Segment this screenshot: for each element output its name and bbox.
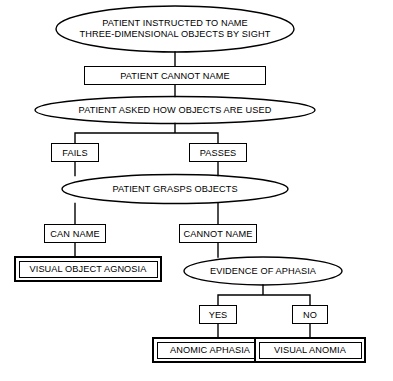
flowchart-diagram: PATIENT INSTRUCTED TO NAME THREE-DIMENSI… (0, 0, 393, 381)
node-grasps-objects-label: PATIENT GRASPS OBJECTS (62, 184, 288, 195)
node-patient-cannot-name: PATIENT CANNOT NAME (84, 66, 266, 85)
node-start-label: PATIENT INSTRUCTED TO NAME THREE-DIMENSI… (56, 18, 294, 40)
node-passes: PASSES (189, 143, 247, 162)
node-cannot-name-2: CANNOT NAME (179, 224, 257, 243)
node-anomic-aphasia: ANOMIC APHASIA (152, 337, 268, 363)
node-asked-how-used-label: PATIENT ASKED HOW OBJECTS ARE USED (35, 105, 315, 116)
node-yes: YES (199, 305, 237, 324)
node-can-name: CAN NAME (44, 224, 106, 243)
node-visual-object-agnosia-label: VISUAL OBJECT AGNOSIA (19, 261, 158, 278)
node-visual-object-agnosia: VISUAL OBJECT AGNOSIA (14, 256, 162, 282)
node-evidence-of-aphasia-label: EVIDENCE OF APHASIA (184, 266, 342, 277)
flowchart-labels-layer: PATIENT INSTRUCTED TO NAME THREE-DIMENSI… (0, 0, 393, 381)
node-visual-anomia-label: VISUAL ANOMIA (259, 342, 362, 359)
node-visual-anomia: VISUAL ANOMIA (254, 337, 366, 363)
node-fails: FAILS (51, 143, 99, 162)
node-no: NO (292, 305, 328, 324)
node-anomic-aphasia-label: ANOMIC APHASIA (157, 342, 264, 359)
